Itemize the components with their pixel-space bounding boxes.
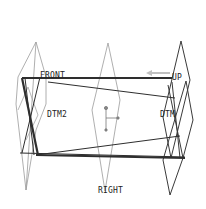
dtm1-plane-label[interactable]: DTM bbox=[160, 110, 175, 119]
datum-plane-top[interactable] bbox=[163, 41, 190, 158]
wireframe-model bbox=[0, 0, 206, 209]
top-plane-label[interactable]: UP bbox=[172, 73, 182, 82]
arrow-left-icon bbox=[146, 70, 170, 76]
csys-icon bbox=[104, 106, 119, 131]
datum-plane-dtm2[interactable] bbox=[18, 87, 38, 140]
dtm2-plane-label[interactable]: DTM2 bbox=[47, 110, 67, 119]
model-viewport[interactable]: FRONT UP DTM DTM2 RIGHT bbox=[0, 0, 206, 209]
right-plane-label[interactable]: RIGHT bbox=[98, 186, 123, 195]
front-plane-label[interactable]: FRONT bbox=[40, 71, 65, 80]
